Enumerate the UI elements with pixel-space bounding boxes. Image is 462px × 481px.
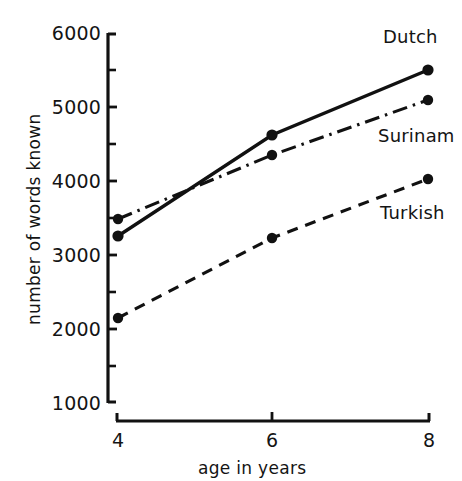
y-tick-label-4000: 4000 [35,172,101,191]
y-tick-label-5000: 5000 [35,98,101,117]
y-tick-label-3000: 3000 [35,246,101,265]
x-axis [116,412,430,421]
x-axis-title: age in years [198,460,306,477]
series-label-surinam: Surinam [378,127,455,145]
y-tick-label-6000: 6000 [35,24,101,43]
series-label-turkish: Turkish [380,204,445,222]
y-axis-title: number of words known [26,113,43,325]
x-tick-label-6: 6 [252,431,292,450]
line-chart: 6000 5000 4000 3000 2000 1000 4 6 8 age … [0,0,462,481]
y-tick-label-2000: 2000 [35,320,101,339]
series-turkish [113,174,433,323]
series-label-dutch: Dutch [383,28,438,46]
y-tick-label-1000: 1000 [35,394,101,413]
x-tick-label-4: 4 [98,431,138,450]
x-tick-label-8: 8 [409,431,449,450]
